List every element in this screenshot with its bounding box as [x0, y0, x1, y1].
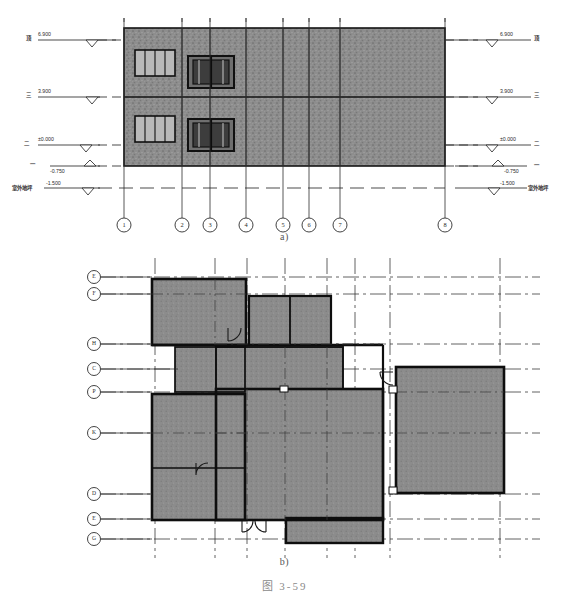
elevation-top-ticks: [124, 18, 445, 22]
level-name-right-4: 室外地坪: [528, 186, 548, 191]
level-name-left-0: 顶: [26, 36, 31, 41]
architectural-drawing-figure: 6.900 顶 3.900 三 ±0.000 二 -0.750 一 -1.500…: [0, 0, 569, 612]
room-center-main: [216, 389, 383, 520]
window-upper-left: [135, 50, 175, 76]
level-value-left-2: ±0.000: [38, 137, 54, 142]
plan-drawing: [88, 258, 541, 558]
grid-bubble-6[interactable]: 6: [303, 222, 315, 228]
level-name-left-1: 三: [26, 93, 31, 98]
level-value-right-0: 6.900: [500, 32, 513, 37]
grid-bubble-3[interactable]: 3: [204, 222, 216, 228]
level-value-right-4: -1.500: [500, 181, 515, 186]
level-value-left-3: -0.750: [50, 169, 65, 174]
level-value-left-4: -1.500: [46, 181, 61, 186]
door-lower-left: [188, 119, 234, 151]
grid-bubble-8[interactable]: 8: [439, 222, 451, 228]
caption-elevation: a): [0, 231, 569, 242]
grid-bubble-7[interactable]: 7: [334, 222, 346, 228]
level-value-left-1: 3.900: [38, 89, 51, 94]
plan-room-masses: [152, 279, 504, 543]
plan-grid-letter-d[interactable]: D: [89, 491, 100, 497]
door-upper-left: [188, 56, 234, 88]
room-upper-left: [152, 279, 246, 345]
room-upper-mid-b: [291, 296, 331, 345]
grid-bubble-1[interactable]: 1: [118, 222, 130, 228]
window-lower-left: [135, 116, 175, 142]
caption-plan: b): [0, 556, 569, 567]
level-name-left-4: 室外地坪: [12, 186, 32, 191]
elevation-drawing: [38, 18, 531, 232]
room-upper-mid-a: [249, 296, 289, 345]
plan-grid-letter-f[interactable]: F: [89, 291, 100, 297]
grid-bubble-4[interactable]: 4: [240, 222, 252, 228]
level-name-right-3: 一: [534, 163, 539, 168]
door-swing-bottom-b: [255, 521, 266, 532]
plan-grid-letter-p[interactable]: P: [89, 389, 100, 395]
plan-grid-letter-e1[interactable]: E: [89, 274, 100, 280]
plan-grid-letter-e2[interactable]: E: [89, 516, 100, 522]
level-name-right-0: 顶: [534, 36, 539, 41]
level-name-right-1: 三: [534, 93, 539, 98]
level-name-right-2: 二: [534, 141, 539, 146]
plan-grid-letter-h[interactable]: H: [89, 341, 100, 347]
plan-grid-letter-c[interactable]: C: [89, 366, 100, 372]
room-right-big: [396, 367, 504, 493]
door-swing-bottom-a: [242, 521, 253, 532]
grid-bubble-5[interactable]: 5: [277, 222, 289, 228]
level-value-right-2: ±0.000: [500, 137, 516, 142]
room-center-core: [216, 347, 343, 389]
room-center-tail: [286, 518, 383, 543]
level-value-right-1: 3.900: [500, 89, 513, 94]
level-name-left-3: 一: [30, 162, 35, 167]
plan-grid-letter-g[interactable]: G: [89, 536, 100, 542]
grid-bubble-2[interactable]: 2: [176, 222, 188, 228]
figure-label: 图 3-59: [0, 577, 569, 593]
level-value-left-0: 6.900: [38, 32, 51, 37]
level-value-right-3: -0.750: [504, 169, 519, 174]
level-name-left-2: 二: [24, 141, 29, 146]
plan-grid-letter-k[interactable]: K: [89, 430, 100, 436]
drawing-canvas: [0, 0, 569, 612]
